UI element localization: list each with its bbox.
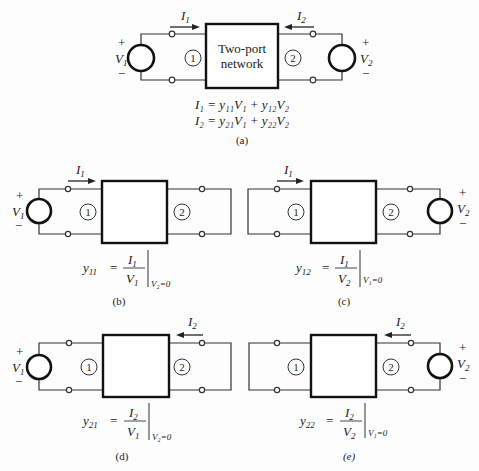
panel-e: 1 2 I2 + V2 − y22 = I2 V2 V₁=0 (e) xyxy=(249,314,470,463)
port-2-label: 2 xyxy=(290,52,296,64)
terminal-icon xyxy=(408,387,413,392)
svg-text:I2: I2 xyxy=(128,405,138,422)
port-2-label: 2 xyxy=(388,206,394,218)
caption-d: (d) xyxy=(116,450,129,463)
svg-text:V2: V2 xyxy=(338,271,351,288)
terminal-icon xyxy=(274,340,279,345)
current-i2-label: I2 xyxy=(395,314,405,331)
voltage-source-v1-icon xyxy=(128,45,154,71)
port-2-label: 2 xyxy=(179,361,185,373)
svg-text:=: = xyxy=(326,413,333,428)
equation-i1: I₁ = y₁₁V₁ + y₁₂V₂ xyxy=(194,97,289,112)
terminal-icon xyxy=(199,186,204,191)
arrowhead-icon xyxy=(192,24,200,30)
voltage-source-v1-icon xyxy=(27,355,51,379)
current-i2-label: I2 xyxy=(296,8,306,25)
formula-y12: y12 = I1 V2 V₁=0 xyxy=(294,250,383,288)
plus-sign: + xyxy=(16,188,23,203)
svg-text:V₂=0: V₂=0 xyxy=(152,432,172,442)
arrowhead-icon xyxy=(296,178,304,184)
svg-text:V1: V1 xyxy=(126,271,138,288)
box-label-line1: Two-port xyxy=(218,41,267,56)
svg-text:=: = xyxy=(110,413,117,428)
arrowhead-icon xyxy=(88,178,96,184)
plus-sign: + xyxy=(459,185,466,200)
minus-sign: − xyxy=(459,371,466,386)
formula-y22: y22 = I2 V2 V₁=0 xyxy=(298,403,388,441)
svg-text:y11: y11 xyxy=(81,260,97,277)
caption-b: (b) xyxy=(113,295,126,308)
terminal-icon xyxy=(169,77,175,83)
svg-text:y12: y12 xyxy=(294,260,311,277)
terminal-icon xyxy=(274,231,279,236)
plus-sign: + xyxy=(459,340,466,355)
terminal-icon xyxy=(310,31,316,37)
terminal-icon xyxy=(274,186,279,191)
terminal-icon xyxy=(65,186,70,191)
port-1-label: 1 xyxy=(190,52,196,64)
svg-text:I2: I2 xyxy=(344,405,354,422)
terminal-icon xyxy=(274,387,279,392)
port-2-label: 2 xyxy=(388,361,394,373)
arrowhead-icon xyxy=(284,24,292,30)
terminal-icon xyxy=(199,231,204,236)
port-1-label: 1 xyxy=(86,361,92,373)
caption-a: (a) xyxy=(236,134,249,147)
panel-d: 1 2 I2 + V1 − y21 = I2 V1 V₂=0 (d) xyxy=(12,314,231,463)
svg-text:I1: I1 xyxy=(339,252,349,269)
terminal-icon xyxy=(408,340,413,345)
box-label-line2: network xyxy=(221,56,264,71)
svg-text:V₁=0: V₁=0 xyxy=(368,428,388,438)
two-port-y-parameter-diagram: Two-port network 1 2 I1 I2 + V1 − + V2 −… xyxy=(0,0,479,471)
svg-text:=: = xyxy=(110,260,117,275)
svg-text:V₁=0: V₁=0 xyxy=(363,275,383,285)
svg-text:V2: V2 xyxy=(343,424,356,441)
minus-sign: − xyxy=(362,66,369,81)
caption-c: (c) xyxy=(338,295,351,308)
terminal-icon xyxy=(199,387,204,392)
plus-sign: + xyxy=(118,35,125,50)
current-i1-label: I1 xyxy=(180,8,190,25)
minus-sign: − xyxy=(118,66,125,81)
voltage-source-v2-icon xyxy=(329,45,355,71)
terminal-icon xyxy=(66,340,71,345)
formula-y11: y11 = I1 V1 V₂=0 xyxy=(81,250,171,289)
terminal-icon xyxy=(65,231,70,236)
network-box xyxy=(311,335,376,397)
terminal-icon xyxy=(310,77,316,83)
network-box xyxy=(102,181,167,243)
current-i2-label: I2 xyxy=(187,314,197,331)
port-1-label: 1 xyxy=(293,361,299,373)
svg-text:=: = xyxy=(322,260,329,275)
minus-sign: − xyxy=(459,216,466,231)
svg-text:I1: I1 xyxy=(127,252,137,269)
port-2-label: 2 xyxy=(179,206,185,218)
panel-c: 1 2 I1 + V2 − y12 = I1 V2 V₁=0 (c) xyxy=(248,162,470,308)
terminal-icon xyxy=(407,231,412,236)
terminal-icon xyxy=(66,387,71,392)
terminal-icon xyxy=(169,31,175,37)
equation-i2: I₂ = y₂₁V₁ + y₂₂V₂ xyxy=(194,113,289,128)
svg-text:y21: y21 xyxy=(81,413,98,430)
current-i1-label: I1 xyxy=(75,162,85,179)
caption-e: (e) xyxy=(343,450,356,463)
arrowhead-icon xyxy=(384,332,392,338)
svg-text:V₂=0: V₂=0 xyxy=(151,279,171,289)
network-box xyxy=(311,181,376,243)
panel-a: Two-port network 1 2 I1 I2 + V1 − + V2 −… xyxy=(115,8,373,147)
arrowhead-icon xyxy=(176,332,184,338)
plus-sign: + xyxy=(16,344,23,359)
voltage-source-v2-icon xyxy=(428,199,452,223)
voltage-source-v1-icon xyxy=(27,199,51,223)
panel-b: 1 2 I1 + V1 − y11 = I1 V1 V₂=0 (b) xyxy=(12,162,231,308)
minus-sign: − xyxy=(15,218,22,233)
voltage-source-v2-icon xyxy=(428,354,452,378)
network-box xyxy=(103,335,169,397)
port-1-label: 1 xyxy=(293,206,299,218)
svg-text:V1: V1 xyxy=(127,424,139,441)
formula-y21: y21 = I2 V1 V₂=0 xyxy=(81,403,172,442)
svg-text:y22: y22 xyxy=(298,413,315,430)
port-1-label: 1 xyxy=(85,206,91,218)
plus-sign: + xyxy=(362,35,369,50)
terminal-icon xyxy=(199,340,204,345)
